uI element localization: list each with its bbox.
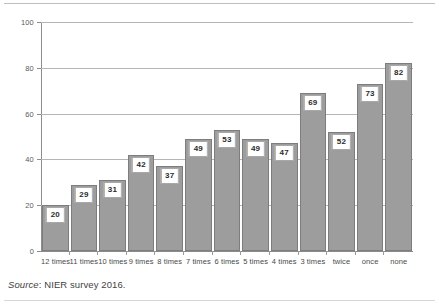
source-note: Source: NIER survey 2016. <box>8 279 126 290</box>
bar-value-label: 49 <box>246 141 264 157</box>
y-tick-label: 0 <box>8 247 34 256</box>
bar[interactable] <box>357 84 384 251</box>
bar[interactable] <box>214 130 241 251</box>
bar-group: 29 <box>70 22 99 251</box>
bar-group: 53 <box>213 22 242 251</box>
bar-group: 73 <box>356 22 385 251</box>
x-tick-mark <box>355 251 356 255</box>
source-text: : NIER survey 2016. <box>39 279 126 290</box>
x-tick-mark <box>383 251 384 255</box>
y-tick-label: 60 <box>8 110 34 119</box>
x-label-twice: twice <box>327 257 356 266</box>
y-tick-label: 40 <box>8 155 34 164</box>
x-label-5-times: 5 times <box>241 257 270 266</box>
x-label-6-times: 6 times <box>213 257 242 266</box>
bar[interactable] <box>385 63 412 251</box>
bar-value-label: 52 <box>332 134 350 150</box>
x-label-none: none <box>384 257 413 266</box>
bar-value-label: 49 <box>189 141 207 157</box>
x-label-once: once <box>356 257 385 266</box>
x-tick-mark <box>69 251 70 255</box>
y-tick-label: 20 <box>8 201 34 210</box>
bar-group: 20 <box>41 22 70 251</box>
bar-group: 69 <box>299 22 328 251</box>
source-label: Source <box>8 279 39 290</box>
bar-value-label: 53 <box>218 132 236 148</box>
bar-value-label: 73 <box>361 86 379 102</box>
x-label-3-times: 3 times <box>299 257 328 266</box>
y-tick-label: 100 <box>8 18 34 27</box>
bar-group: 37 <box>155 22 184 251</box>
plot-wrapper: 020406080100 20293142374953494769527382 … <box>0 14 439 266</box>
bar-value-label: 42 <box>132 157 150 173</box>
bar-group: 52 <box>327 22 356 251</box>
x-tick-mark <box>298 251 299 255</box>
x-tick-mark <box>126 251 127 255</box>
x-label-9-times: 9 times <box>127 257 156 266</box>
x-axis-tick-labels: 12 times11 times10 times9 times8 times7 … <box>41 257 413 273</box>
bar-value-label: 69 <box>304 95 322 111</box>
chart-figure: 020406080100 20293142374953494769527382 … <box>0 0 439 305</box>
x-label-8-times: 8 times <box>155 257 184 266</box>
bottom-divider <box>4 300 435 301</box>
y-tick-mark-0 <box>37 251 41 252</box>
x-label-4-times: 4 times <box>270 257 299 266</box>
x-tick-mark <box>183 251 184 255</box>
bar-group: 31 <box>98 22 127 251</box>
bar-value-label: 47 <box>275 145 293 161</box>
bar-group: 49 <box>184 22 213 251</box>
x-label-11-times: 11 times <box>70 257 99 266</box>
x-tick-mark <box>97 251 98 255</box>
x-label-12-times: 12 times <box>41 257 70 266</box>
bar-group: 82 <box>384 22 413 251</box>
x-tick-mark <box>240 251 241 255</box>
bar-group: 42 <box>127 22 156 251</box>
x-tick-mark <box>326 251 327 255</box>
bar-group: 49 <box>241 22 270 251</box>
top-divider <box>4 3 435 4</box>
x-label-10-times: 10 times <box>98 257 127 266</box>
y-tick-label: 80 <box>8 64 34 73</box>
x-tick-mark <box>212 251 213 255</box>
bar-value-label: 29 <box>75 187 93 203</box>
bar-value-label: 31 <box>103 182 121 198</box>
bar-value-label: 37 <box>161 168 179 184</box>
x-tick-mark <box>269 251 270 255</box>
bar[interactable] <box>300 93 327 251</box>
bar-group: 47 <box>270 22 299 251</box>
bar-value-label: 82 <box>390 65 408 81</box>
x-label-7-times: 7 times <box>184 257 213 266</box>
bar-series: 20293142374953494769527382 <box>41 22 413 251</box>
bar-value-label: 20 <box>46 207 64 223</box>
x-tick-mark <box>154 251 155 255</box>
